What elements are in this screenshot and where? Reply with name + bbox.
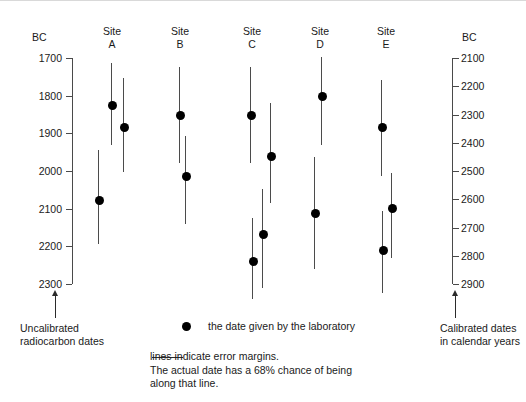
data-point-4-2 xyxy=(379,246,388,255)
right-tick-label: 2100 xyxy=(461,53,484,63)
right-tick-label: 2200 xyxy=(461,81,484,91)
site-header-4: Site E xyxy=(356,25,416,50)
left-axis-line xyxy=(72,58,73,284)
site-header-1: Site B xyxy=(150,25,210,50)
data-point-4-0 xyxy=(378,123,387,132)
right-tick xyxy=(453,115,459,116)
right-tick xyxy=(453,284,459,285)
left-tick-label: 1900 xyxy=(28,128,62,138)
top-divider xyxy=(0,0,526,1)
right-tick xyxy=(453,171,459,172)
right-tick-label: 2400 xyxy=(461,138,484,148)
right-axis-title: BC xyxy=(462,31,477,43)
right-tick xyxy=(453,86,459,87)
left-axis-caption: Uncalibrated radiocarbon dates xyxy=(20,322,104,348)
left-tick-label: 2200 xyxy=(28,241,62,251)
site-header-2: Site C xyxy=(222,25,282,50)
data-point-4-1 xyxy=(388,204,397,213)
left-axis-title: BC xyxy=(32,31,47,43)
data-point-1-0 xyxy=(176,111,185,120)
right-tick-label: 2600 xyxy=(461,194,484,204)
left-tick xyxy=(66,284,72,285)
radiocarbon-calibration-chart: BC BC 1700180019002000210022002300210022… xyxy=(0,0,526,402)
legend-dot-text: the date given by the laboratory xyxy=(208,320,355,334)
data-point-2-3 xyxy=(249,257,258,266)
left-tick xyxy=(66,171,72,172)
right-tick-label: 2700 xyxy=(461,223,484,233)
data-point-0-2 xyxy=(95,196,104,205)
data-point-2-1 xyxy=(267,152,276,161)
data-point-2-2 xyxy=(259,230,268,239)
site-header-3: Site D xyxy=(290,25,350,50)
left-tick-label: 2100 xyxy=(28,204,62,214)
right-tick xyxy=(453,143,459,144)
legend-dot-marker-icon xyxy=(182,322,191,331)
left-tick-label: 2300 xyxy=(28,279,62,289)
right-tick xyxy=(453,58,459,59)
left-arrow-shaft xyxy=(55,296,56,318)
data-point-0-0 xyxy=(108,101,117,110)
error-bar-3-0 xyxy=(321,57,322,146)
data-point-3-0 xyxy=(318,92,327,101)
left-tick xyxy=(66,58,72,59)
left-tick xyxy=(66,133,72,134)
right-tick-label: 2300 xyxy=(461,110,484,120)
right-tick xyxy=(453,256,459,257)
left-tick xyxy=(66,209,72,210)
left-tick-label: 2000 xyxy=(28,166,62,176)
right-arrow-head-icon xyxy=(452,290,458,296)
left-arrow-head-icon xyxy=(52,290,58,296)
left-tick-label: 1700 xyxy=(28,53,62,63)
data-point-0-1 xyxy=(120,123,129,132)
right-tick xyxy=(453,228,459,229)
right-tick-label: 2900 xyxy=(461,279,484,289)
data-point-1-1 xyxy=(182,172,191,181)
left-tick-label: 1800 xyxy=(28,91,62,101)
site-header-0: Site A xyxy=(82,25,142,50)
left-tick xyxy=(66,96,72,97)
data-point-2-0 xyxy=(247,111,256,120)
right-arrow-shaft xyxy=(455,296,456,318)
left-tick xyxy=(66,246,72,247)
right-tick xyxy=(453,199,459,200)
legend-line-text: lines indicate error margins. The actual… xyxy=(150,350,352,391)
data-point-3-1 xyxy=(311,209,320,218)
right-tick-label: 2500 xyxy=(461,166,484,176)
right-tick-label: 2800 xyxy=(461,251,484,261)
right-axis-caption: Calibrated dates in calendar years xyxy=(440,322,520,348)
error-bar-4-1 xyxy=(391,173,392,259)
